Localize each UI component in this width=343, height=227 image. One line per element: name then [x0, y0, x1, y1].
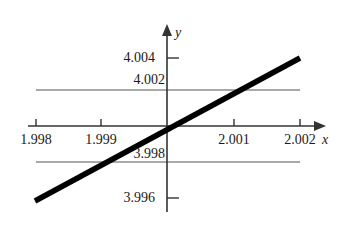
y-axis-arrowhead — [162, 24, 172, 36]
y-tick-label-3998: 3.998 — [134, 147, 166, 161]
figure-container: 4.004 4.002 3.998 3.996 1.998 1.999 2.00… — [0, 0, 343, 227]
x-tick-label-2002: 2.002 — [284, 133, 316, 147]
x-axis-ticks — [36, 119, 300, 126]
x-tick-label-1999: 1.999 — [85, 133, 117, 147]
x-axis-name: x — [322, 133, 328, 147]
x-tick-label-2001: 2.001 — [218, 133, 250, 147]
chart-plot — [0, 0, 343, 227]
y-tick-label-3996: 3.996 — [124, 191, 156, 205]
y-tick-label-4004: 4.004 — [124, 51, 156, 65]
x-tick-label-1998: 1.998 — [20, 133, 52, 147]
x-axis-arrowhead — [314, 121, 326, 131]
y-tick-label-4002: 4.002 — [134, 73, 166, 87]
axis-lines — [28, 24, 326, 212]
y-axis-name: y — [175, 26, 181, 40]
